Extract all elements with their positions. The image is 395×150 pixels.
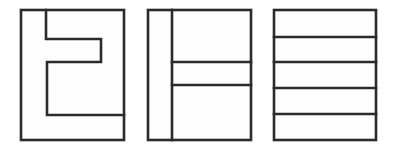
figure-3 (274, 10, 376, 140)
figure-panel (0, 0, 395, 150)
figure-3-outer-rect (274, 10, 376, 140)
figure-2 (148, 10, 251, 140)
figure-2-outer-rect (148, 10, 251, 140)
figure-1 (21, 10, 124, 140)
figures-canvas (0, 0, 395, 150)
